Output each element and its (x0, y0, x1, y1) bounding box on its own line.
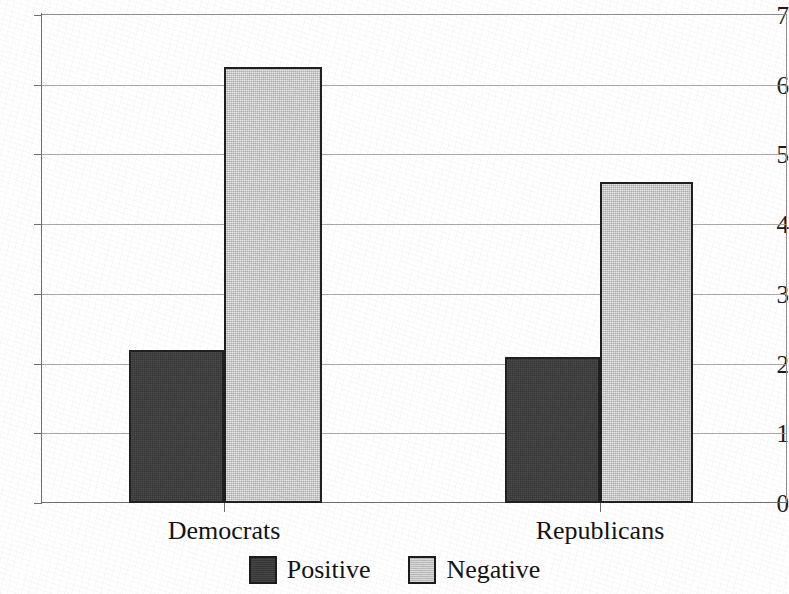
legend-entry-negative[interactable]: Negative (408, 556, 540, 584)
bar-republicans-negative[interactable] (600, 182, 693, 503)
bar-republicans-positive[interactable] (505, 357, 600, 503)
legend-label-negative: Negative (446, 556, 540, 584)
bar-democrats-positive[interactable] (129, 350, 224, 503)
legend-swatch-positive-icon (249, 556, 277, 584)
plot-frame-right (786, 14, 787, 503)
x-tick-mark-democrats (224, 503, 225, 512)
x-axis-label-democrats: Democrats (124, 516, 324, 546)
legend-label-positive: Positive (287, 556, 371, 584)
gridline-5 (42, 154, 786, 155)
legend: Positive Negative (0, 556, 789, 584)
plot-area (42, 15, 786, 503)
x-axis-label-republicans: Republicans (500, 516, 700, 546)
bar-democrats-negative[interactable] (224, 67, 322, 503)
gridline-6 (42, 85, 786, 86)
x-tick-mark-republicans (600, 503, 601, 512)
legend-swatch-negative-icon (408, 556, 436, 584)
bar-chart-figure: 7 6 5 4 3 2 1 0 Democrats Re (0, 0, 789, 594)
legend-entry-positive[interactable]: Positive (249, 556, 371, 584)
